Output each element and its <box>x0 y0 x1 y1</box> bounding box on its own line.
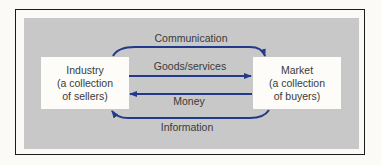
industry-node: Industry (a collection of sellers) <box>41 57 129 109</box>
industry-desc-2: of sellers) <box>62 90 108 103</box>
communication-label: Communication <box>155 32 228 44</box>
market-desc-1: (a collection <box>269 77 325 90</box>
goods-label: Goods/services <box>154 60 226 72</box>
money-label: Money <box>173 95 205 107</box>
information-label: Information <box>161 121 214 133</box>
information-arrow <box>112 110 269 118</box>
market-node: Market (a collection of buyers) <box>253 57 341 109</box>
market-title: Market <box>281 64 313 77</box>
industry-title: Industry <box>66 64 103 77</box>
market-desc-2: of buyers) <box>274 90 321 103</box>
industry-desc-1: (a collection <box>57 77 113 90</box>
communication-arrow <box>113 47 265 56</box>
